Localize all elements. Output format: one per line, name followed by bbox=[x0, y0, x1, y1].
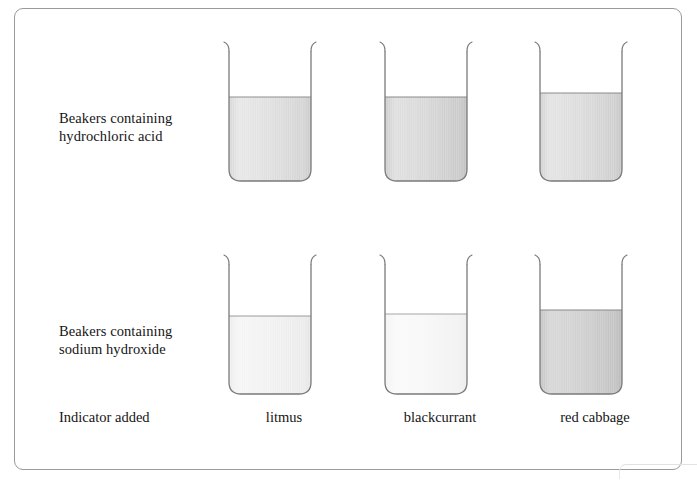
figure-frame: Beakers containing hydrochloric acid Bea… bbox=[14, 8, 682, 470]
beaker-alkali-litmus bbox=[223, 254, 317, 396]
beaker-alkali-blackcurrant bbox=[379, 254, 473, 396]
row-label-indicator-added: Indicator added bbox=[59, 409, 150, 426]
beaker-acid-blackcurrant bbox=[379, 41, 473, 183]
beaker-acid-red-cabbage bbox=[534, 41, 628, 183]
beaker-alkali-red-cabbage bbox=[534, 254, 628, 396]
column-caption-blackcurrant: blackcurrant bbox=[360, 409, 520, 426]
column-caption-litmus: litmus bbox=[204, 409, 364, 426]
column-caption-red-cabbage: red cabbage bbox=[515, 409, 675, 426]
row-label-sodium-hydroxide: Beakers containing sodium hydroxide bbox=[59, 322, 172, 358]
page-curl-decoration bbox=[619, 464, 697, 479]
beaker-acid-litmus bbox=[223, 41, 317, 183]
row-label-hydrochloric-acid: Beakers containing hydrochloric acid bbox=[59, 109, 172, 145]
